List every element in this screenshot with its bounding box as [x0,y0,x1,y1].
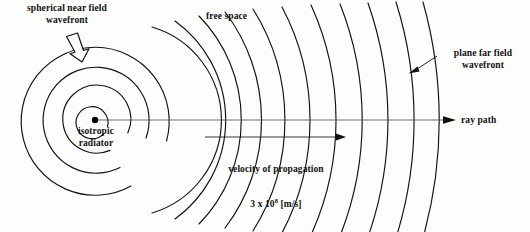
wavefront-arc-14 [396,2,414,232]
far-field-leader [409,56,438,74]
label-isotropic-radiator: isotropic radiator [60,126,132,149]
label-plane-far-field-wavefront: plane far field wavefront [440,48,526,71]
velocity-arrow [205,134,346,141]
velocity-value-line: 3 x 108 [m/s] [204,199,348,211]
label-spherical-near-field-wavefront: spherical near field wavefront [8,3,126,26]
isotropic-radiator-dot [92,117,98,123]
ray-path-arrowhead [443,116,456,124]
velocity-magnitude: 3 x 10 [250,199,274,209]
wavefront-arc-15 [423,2,439,232]
label-free-space: free space [206,11,270,23]
velocity-arrowhead [336,134,346,141]
wavefront-diagram-figure: spherical near field wavefront free spac… [0,0,530,232]
label-velocity-of-propagation: velocity of propagation 3 x 108 [m/s] [204,141,348,232]
velocity-text-line: velocity of propagation [204,164,348,176]
label-ray-path: ray path [461,115,521,127]
wavefront-arc-13 [368,3,388,232]
velocity-units: [m/s] [278,199,302,209]
